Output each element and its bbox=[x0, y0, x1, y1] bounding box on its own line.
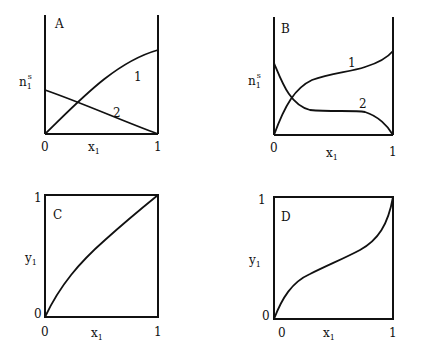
panel-d: D 1 0 y1 0 x1 1 bbox=[248, 193, 397, 342]
panel-a: A 1 2 n1s 0 x1 1 bbox=[19, 15, 162, 156]
panel-a-curve-1 bbox=[45, 50, 158, 134]
panel-a-x-tick-1: 1 bbox=[154, 140, 162, 154]
panel-c-x-tick-0: 0 bbox=[41, 325, 49, 339]
panel-a-curve-2 bbox=[45, 90, 158, 134]
panel-b-curve-1-label: 1 bbox=[348, 56, 356, 70]
figure: A 1 2 n1s 0 x1 1 B 1 2 n1s 0 x1 1 C 1 0 … bbox=[0, 0, 423, 351]
panel-c-ylabel: y1 bbox=[24, 251, 37, 267]
panel-d-frame bbox=[274, 197, 393, 319]
panel-a-xlabel: x1 bbox=[88, 140, 100, 156]
panel-d-ylabel: y1 bbox=[248, 253, 261, 269]
panel-d-curve bbox=[274, 197, 393, 319]
panel-d-y-tick-1: 1 bbox=[258, 193, 266, 207]
panel-c: C 1 0 y1 0 x1 1 bbox=[24, 191, 162, 342]
panel-b-xlabel: x1 bbox=[326, 146, 338, 162]
panel-b-x-tick-1: 1 bbox=[389, 145, 397, 159]
panel-b-label: B bbox=[281, 22, 290, 36]
panel-d-x-tick-1: 1 bbox=[389, 326, 397, 340]
panel-d-y-tick-0: 0 bbox=[262, 309, 270, 323]
panel-a-curve-1-label: 1 bbox=[134, 70, 142, 84]
panel-a-x-tick-0: 0 bbox=[41, 140, 49, 154]
panel-d-xlabel: x1 bbox=[323, 326, 335, 342]
panel-b-curve-1 bbox=[274, 51, 393, 135]
panel-c-y-tick-0: 0 bbox=[34, 307, 42, 321]
panel-a-label: A bbox=[54, 17, 64, 31]
panel-d-x-tick-0: 0 bbox=[278, 326, 286, 340]
panel-a-curve-2-label: 2 bbox=[113, 106, 121, 120]
panel-b: B 1 2 n1s 0 x1 1 bbox=[248, 17, 397, 162]
panel-a-ylabel: n1s bbox=[19, 72, 32, 91]
panel-c-xlabel: x1 bbox=[91, 326, 103, 342]
panel-c-x-tick-1: 1 bbox=[154, 325, 162, 339]
panel-c-y-tick-1: 1 bbox=[34, 191, 42, 205]
panel-b-x-tick-0: 0 bbox=[270, 141, 278, 155]
panel-b-ylabel: n1s bbox=[248, 71, 261, 90]
panel-b-curve-2-label: 2 bbox=[359, 97, 367, 111]
panel-d-label: D bbox=[281, 210, 291, 224]
panel-c-label: C bbox=[53, 208, 62, 222]
